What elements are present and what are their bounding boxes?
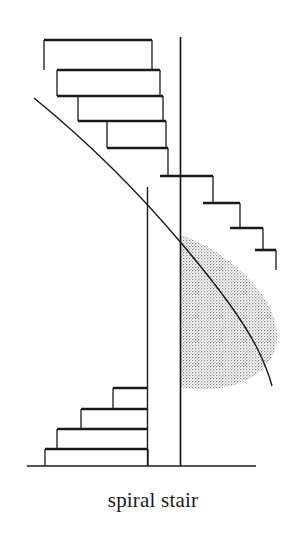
- tread-7: [203, 203, 240, 228]
- tread-8: [230, 228, 263, 250]
- figure-caption: spiral stair: [0, 488, 306, 512]
- tread-6: [160, 176, 213, 203]
- tread-10: [113, 388, 148, 409]
- tread-4: [78, 121, 166, 148]
- spiral-stair-figure: spiral stair: [0, 0, 306, 535]
- tread-13: [45, 449, 148, 466]
- tread-11: [81, 409, 148, 429]
- tread-1: [44, 40, 152, 70]
- tread-12: [57, 429, 148, 449]
- lower-treads-group: [45, 388, 148, 466]
- upper-treads-group: [44, 40, 276, 270]
- tread-3: [57, 96, 163, 121]
- tread-9: [255, 250, 276, 270]
- stair-drawing: [0, 0, 306, 535]
- tread-2: [57, 70, 160, 96]
- stipple-shaded-region: [181, 235, 278, 389]
